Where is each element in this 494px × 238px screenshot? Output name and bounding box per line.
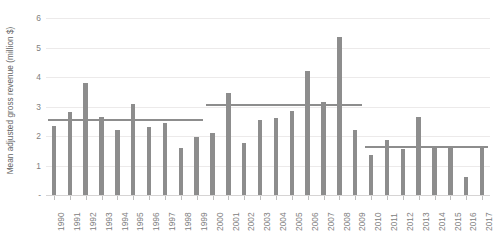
bar-1999: [194, 137, 198, 195]
x-tick-1997: [165, 196, 166, 200]
x-tick-2001: [228, 196, 229, 200]
decade-mean-2010s: [365, 146, 489, 148]
x-tick-2002: [244, 196, 245, 200]
x-tick-1994: [117, 196, 118, 200]
x-tick-1998: [181, 196, 182, 200]
x-axis-label-1998: 1998: [184, 212, 192, 231]
x-axis-label-2011: 2011: [390, 213, 398, 231]
x-axis-label-1999: 1999: [200, 212, 208, 231]
x-axis-label-1990: 1990: [57, 212, 65, 231]
bar-2006: [305, 71, 309, 195]
x-tick-2003: [260, 196, 261, 200]
x-axis-label-2007: 2007: [327, 212, 335, 231]
x-tick-1992: [86, 196, 87, 200]
bar-2013: [416, 117, 420, 195]
x-tick-2005: [292, 196, 293, 200]
x-tick-2017: [482, 196, 483, 200]
bar-2004: [274, 118, 278, 195]
y-axis-title: Mean adjusted gross revenue (million $): [0, 0, 22, 200]
x-axis-label-2016: 2016: [469, 212, 477, 231]
bar-2005: [290, 111, 294, 195]
gridline-1: [46, 166, 490, 167]
gridline-5: [46, 48, 490, 49]
bar-2014: [432, 148, 436, 195]
decade-mean-2000s: [206, 104, 361, 106]
bar-2012: [401, 149, 405, 195]
x-tick-2006: [308, 196, 309, 200]
x-tick-1999: [197, 196, 198, 200]
x-axis-label-1994: 1994: [121, 212, 129, 231]
bar-2000: [210, 133, 214, 195]
y-tick-label-1: 1: [36, 161, 41, 169]
x-tick-2004: [276, 196, 277, 200]
decade-mean-1990s: [48, 119, 203, 121]
x-tick-2014: [435, 196, 436, 200]
y-tick-label-0: -: [38, 191, 41, 199]
bar-1992: [83, 83, 87, 195]
bar-2007: [321, 102, 325, 195]
bar-2016: [464, 177, 468, 195]
x-axis-label-2000: 2000: [216, 212, 224, 231]
x-tick-2009: [355, 196, 356, 200]
y-axis-title-label: Mean adjusted gross revenue (million $): [7, 26, 16, 174]
bar-1995: [131, 104, 135, 195]
x-tick-1993: [102, 196, 103, 200]
bar-1991: [68, 112, 72, 195]
x-axis-label-1993: 1993: [105, 212, 113, 231]
x-axis-label-1992: 1992: [89, 212, 97, 231]
x-tick-1996: [149, 196, 150, 200]
bar-2009: [353, 130, 357, 195]
x-tick-1990: [54, 196, 55, 200]
x-axis-label-2004: 2004: [279, 212, 287, 231]
gridline-6: [46, 18, 490, 19]
y-tick-label-3: 3: [36, 102, 41, 110]
bar-2011: [385, 140, 389, 195]
x-tick-2007: [324, 196, 325, 200]
x-axis-label-2003: 2003: [263, 212, 271, 231]
bar-2015: [448, 148, 452, 195]
revenue-bar-chart: Mean adjusted gross revenue (million $) …: [0, 0, 494, 238]
bar-2017: [480, 146, 484, 195]
x-axis-label-2006: 2006: [311, 212, 319, 231]
x-axis-label-2001: 2001: [232, 212, 240, 231]
x-tick-1995: [133, 196, 134, 200]
x-tick-2013: [419, 196, 420, 200]
x-tick-2015: [450, 196, 451, 200]
x-axis-label-1997: 1997: [168, 212, 176, 231]
bar-1993: [99, 117, 103, 195]
plot-area: -123456: [46, 18, 490, 195]
y-tick-label-4: 4: [36, 73, 41, 81]
x-tick-2012: [403, 196, 404, 200]
x-axis-label-2015: 2015: [454, 212, 462, 231]
x-axis-label-2012: 2012: [406, 212, 414, 231]
x-tick-2010: [371, 196, 372, 200]
x-axis-label-2017: 2017: [485, 212, 493, 231]
x-tick-2008: [339, 196, 340, 200]
bar-2003: [258, 120, 262, 195]
x-tick-2011: [387, 196, 388, 200]
bar-1997: [163, 123, 167, 195]
x-tick-1991: [70, 196, 71, 200]
x-tick-2000: [213, 196, 214, 200]
gridline-3: [46, 107, 490, 108]
bar-1994: [115, 130, 119, 195]
bar-2010: [369, 155, 373, 195]
x-axis-label-1995: 1995: [136, 212, 144, 231]
y-tick-label-5: 5: [36, 43, 41, 51]
x-axis-label-1996: 1996: [152, 212, 160, 231]
y-tick-label-6: 6: [36, 14, 41, 22]
x-axis-label-2013: 2013: [422, 212, 430, 231]
x-axis-label-2008: 2008: [343, 212, 351, 231]
x-tick-2016: [466, 196, 467, 200]
bar-1990: [52, 126, 56, 195]
bar-2001: [226, 93, 230, 195]
bar-1998: [179, 148, 183, 195]
gridline-4: [46, 77, 490, 78]
y-tick-label-2: 2: [36, 132, 41, 140]
x-axis-label-2005: 2005: [295, 212, 303, 231]
x-axis-label-1991: 1991: [73, 212, 81, 231]
bar-2002: [242, 143, 246, 195]
x-axis-labels: 1990199119921993199419951996199719981999…: [46, 196, 490, 238]
x-axis-label-2014: 2014: [438, 212, 446, 231]
x-axis-label-2010: 2010: [374, 212, 382, 231]
